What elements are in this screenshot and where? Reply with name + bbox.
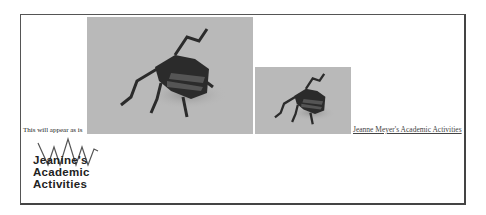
origami-insect-small-image (255, 67, 351, 134)
caption-text: This will appear as is (23, 126, 83, 134)
logo-line-1: Jeanine's (33, 154, 88, 166)
logo-line-3: Activities (33, 178, 87, 190)
jeanines-academic-activities-logo: Jeanine's Academic Activities (28, 137, 100, 199)
origami-insect-illustration (255, 67, 351, 134)
origami-insect-illustration (87, 17, 253, 134)
academic-activities-link[interactable]: Jeanne Meyer's Academic Activities (353, 125, 462, 134)
logo-line-2: Academic (33, 166, 90, 178)
origami-insect-large-image (87, 17, 253, 134)
